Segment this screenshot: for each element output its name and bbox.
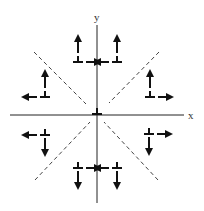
dislocation-symbol-left-lower — [23, 129, 50, 155]
dashed-line-lower-left — [35, 122, 90, 180]
dislocation-symbol-lower-left-inner — [73, 162, 100, 188]
y-axis-label: y — [94, 11, 100, 23]
dislocation-symbol-right-lower — [144, 128, 171, 154]
dislocation-symbol-upper-left-inner — [73, 36, 100, 62]
x-axis-label: x — [188, 109, 194, 121]
dislocation-symbol-origin — [92, 108, 102, 114]
dislocation-symbol-right-upper — [145, 71, 172, 97]
dislocation-diagram: x y — [0, 0, 204, 211]
dislocation-symbol-lower-right-inner — [95, 162, 122, 188]
dislocation-symbol-left-upper — [23, 71, 50, 97]
dislocation-symbol-upper-right-inner — [95, 36, 122, 62]
